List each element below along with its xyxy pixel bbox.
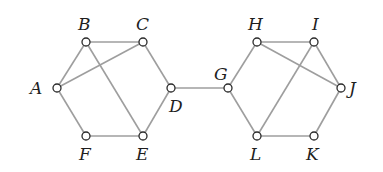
edge-j-k	[314, 88, 341, 136]
node-label-d: D	[168, 96, 183, 116]
node-j-circle-icon	[337, 84, 345, 92]
edge-l-g	[228, 88, 257, 136]
node-label-l: L	[249, 144, 261, 164]
node-label-b: B	[77, 14, 91, 34]
node-label-e: E	[135, 144, 149, 164]
edge-i-l	[257, 42, 314, 136]
edge-d-e	[143, 88, 171, 136]
node-b-circle-icon	[82, 38, 90, 46]
node-a-circle-icon	[53, 84, 61, 92]
node-d-circle-icon	[167, 84, 175, 92]
node-label-k: K	[305, 144, 320, 164]
node-k-circle-icon	[310, 132, 318, 140]
edge-g-h	[228, 42, 257, 88]
node-label-c: C	[136, 14, 149, 34]
graph-diagram: ABCDEFGHIJKL	[0, 0, 383, 172]
label-layer: ABCDEFGHIJKL	[28, 14, 357, 164]
node-e-circle-icon	[139, 132, 147, 140]
node-label-g: G	[214, 64, 228, 84]
node-h-circle-icon	[253, 38, 261, 46]
node-label-a: A	[28, 78, 42, 98]
node-c-circle-icon	[139, 38, 147, 46]
node-label-j: J	[346, 78, 357, 98]
node-g-circle-icon	[224, 84, 232, 92]
node-label-h: H	[247, 14, 264, 34]
node-f-circle-icon	[82, 132, 90, 140]
edge-b-e	[86, 42, 143, 136]
edge-f-a	[57, 88, 86, 136]
node-i-circle-icon	[310, 38, 318, 46]
edge-c-d	[143, 42, 171, 88]
node-l-circle-icon	[253, 132, 261, 140]
node-label-i: I	[311, 14, 319, 34]
node-label-f: F	[78, 144, 92, 164]
node-layer	[53, 38, 345, 140]
edge-layer	[57, 42, 341, 136]
